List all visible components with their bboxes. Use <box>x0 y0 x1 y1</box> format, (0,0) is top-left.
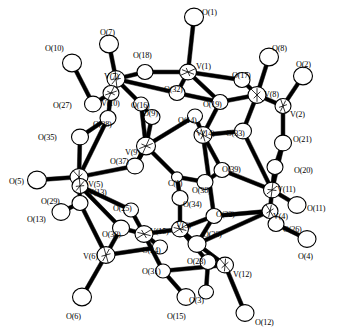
label-o26: O(26) <box>283 226 302 234</box>
atom-ellipsoid <box>267 160 283 175</box>
label-o10: O(10) <box>45 45 64 53</box>
label-o16: O(16) <box>131 102 150 110</box>
label-v10: V(10) <box>101 100 120 108</box>
label-o34: O(34) <box>183 201 202 209</box>
label-v4: V(4) <box>273 213 288 221</box>
atom-ellipsoid <box>185 8 204 26</box>
atom-ellipsoid <box>73 288 92 306</box>
label-o38: O(38) <box>192 187 211 195</box>
atom-o11 <box>288 197 306 214</box>
label-o7: O(7) <box>100 29 115 37</box>
bond <box>44 176 73 182</box>
label-o20: O(20) <box>294 167 313 175</box>
label-v11: V(11) <box>277 186 295 194</box>
label-o23: O(23) <box>187 258 206 266</box>
atom-v1 <box>180 64 197 80</box>
bond <box>243 100 256 126</box>
bond-layer <box>44 24 302 308</box>
atom-ellipsoid <box>137 65 153 80</box>
label-o25: O(25) <box>113 205 132 213</box>
bond <box>77 143 81 170</box>
bond <box>178 204 182 223</box>
label-o30: O(30) <box>102 231 121 239</box>
label-o36: O(36) <box>203 231 222 239</box>
label-o32: O(32) <box>164 86 183 94</box>
atom-v6 <box>97 247 115 264</box>
atom-layer <box>28 8 317 321</box>
atom-o18 <box>137 65 153 80</box>
bond <box>194 71 237 81</box>
bond <box>151 70 182 74</box>
atom-ellipsoid <box>100 35 119 53</box>
atom-o27 <box>85 96 102 112</box>
atom-ellipsoid <box>127 158 144 174</box>
bond <box>108 50 116 73</box>
label-o24: O(24) <box>142 247 161 255</box>
label-o8: O(8) <box>272 45 287 53</box>
label-v3: V(3) <box>176 222 191 230</box>
label-o17: O(17) <box>232 72 251 80</box>
atom-o7 <box>100 35 119 53</box>
label-o15: O(15) <box>167 313 186 321</box>
atom-o37 <box>127 158 144 174</box>
label-v12: V(12) <box>233 271 252 279</box>
label-o33: O(33) <box>226 130 245 138</box>
atom-v2 <box>275 99 291 114</box>
atom-o21 <box>275 135 292 151</box>
label-o19: O(19) <box>203 101 222 109</box>
atom-o6 <box>73 288 92 306</box>
label-o29: O(29) <box>41 198 60 206</box>
label-o9: O(9) <box>143 110 158 118</box>
bond <box>187 24 195 67</box>
label-o31: O(31) <box>142 268 161 276</box>
atom-o2 <box>294 67 313 85</box>
atom-o1 <box>185 8 204 26</box>
label-o4: O(4) <box>298 253 313 261</box>
bond <box>281 112 285 137</box>
label-o1: O(1) <box>202 9 217 17</box>
label-o3: O(3) <box>189 297 204 305</box>
bond <box>149 149 175 175</box>
atom-o5 <box>28 171 47 189</box>
atom-o20 <box>267 160 283 175</box>
label-v9: V(9) <box>125 149 140 157</box>
ortep-structure-figure: V(1)V(2)V(3)V(4)V(5)V(6)V(7)V(8)V(9)V(10… <box>0 0 337 334</box>
label-o21: O(21) <box>293 136 312 144</box>
atom-o35 <box>72 129 89 145</box>
label-o2: O(2) <box>296 61 311 69</box>
label-o14: O(14) <box>178 117 197 125</box>
atom-ellipsoid <box>28 171 47 189</box>
bond <box>84 260 105 292</box>
atom-o12 <box>236 305 254 322</box>
label-o13: O(13) <box>27 216 46 224</box>
atom-ellipsoid <box>72 129 89 145</box>
atom-v13 <box>72 178 88 193</box>
label-o22: O(22) <box>216 211 235 219</box>
atom-ellipsoid <box>63 54 82 72</box>
label-v8: V(8) <box>264 91 279 99</box>
bond <box>81 207 105 250</box>
label-o35: O(35) <box>38 134 57 142</box>
label-o28: O(28) <box>93 121 112 129</box>
bond <box>204 106 219 130</box>
label-o37: O(37) <box>110 158 129 166</box>
atom-ellipsoid <box>275 135 292 151</box>
atom-ellipsoid <box>85 96 102 112</box>
bond <box>204 268 209 287</box>
label-o39: O(39) <box>222 166 241 174</box>
label-v6: V(6) <box>83 253 98 261</box>
atom-o29 <box>72 196 88 211</box>
label-v13: V(13) <box>88 189 107 197</box>
atom-ellipsoid <box>236 305 254 322</box>
label-o5: O(5) <box>9 178 24 186</box>
label-v14: V(14) <box>196 130 215 138</box>
label-v7: V(7) <box>104 73 119 81</box>
label-o6: O(6) <box>66 313 81 321</box>
bond <box>225 94 251 102</box>
atom-ellipsoid <box>72 196 88 211</box>
atom-ellipsoid <box>288 197 306 214</box>
bond <box>85 165 129 177</box>
bond <box>257 63 269 89</box>
label-o12: O(12) <box>255 319 274 327</box>
atom-o10 <box>63 54 82 72</box>
